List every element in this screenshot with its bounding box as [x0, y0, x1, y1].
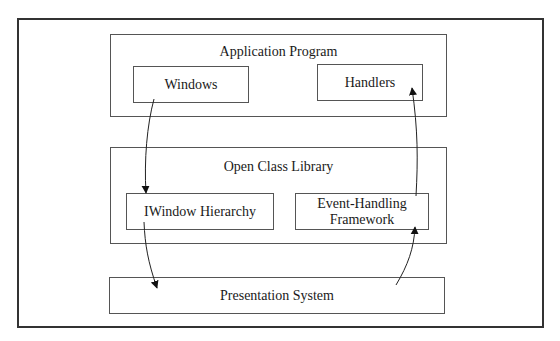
iwindow-hierarchy-box: IWindow Hierarchy: [126, 193, 274, 230]
handlers-box: Handlers: [317, 64, 423, 101]
application-program-title: Application Program: [111, 44, 446, 60]
presentation-system-layer: Presentation System: [109, 277, 445, 314]
event-handling-framework-box: Event-Handling Framework: [295, 193, 429, 230]
handlers-label: Handlers: [345, 75, 396, 91]
presentation-system-title: Presentation System: [220, 288, 334, 304]
windows-box: Windows: [133, 66, 249, 103]
event-handling-label-line1: Event-Handling: [317, 196, 406, 212]
iwindow-hierarchy-label: IWindow Hierarchy: [144, 204, 256, 220]
event-handling-label-line2: Framework: [330, 212, 395, 228]
open-class-library-title: Open Class Library: [111, 159, 446, 175]
windows-label: Windows: [164, 77, 217, 93]
